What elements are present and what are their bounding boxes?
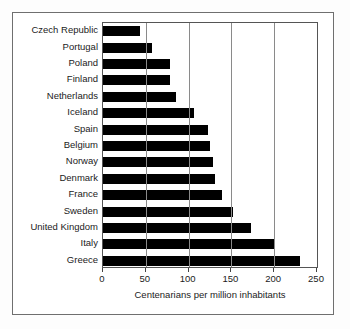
bar-row xyxy=(103,105,317,121)
category-label: Netherlands xyxy=(14,91,98,101)
category-label: Spain xyxy=(14,124,98,134)
bar-row xyxy=(103,236,317,252)
tick-mark-250 xyxy=(316,268,317,272)
gridline-200 xyxy=(274,23,275,267)
bar xyxy=(103,108,194,118)
bar xyxy=(103,92,176,102)
bar xyxy=(103,174,215,184)
bar xyxy=(103,190,222,200)
x-axis-tick-labels: 050100150200250 xyxy=(102,273,318,286)
category-label: Iceland xyxy=(14,107,98,117)
tick-label-150: 150 xyxy=(222,273,238,285)
bar-row xyxy=(103,171,317,187)
tick-label-50: 50 xyxy=(140,273,151,285)
tick-label-250: 250 xyxy=(308,273,324,285)
category-label: Finland xyxy=(14,74,98,84)
tick-mark-200 xyxy=(273,268,274,272)
tick-mark-0 xyxy=(102,268,103,272)
category-label: Belgium xyxy=(14,140,98,150)
category-label: Italy xyxy=(14,238,98,248)
category-label: Portugal xyxy=(14,42,98,52)
tick-mark-150 xyxy=(230,268,231,272)
bar-row xyxy=(103,154,317,170)
x-axis-title: Centenarians per million inhabitants xyxy=(102,289,318,301)
tick-label-200: 200 xyxy=(265,273,281,285)
bar-row xyxy=(103,72,317,88)
bar-row xyxy=(103,121,317,137)
bar xyxy=(103,59,170,69)
bar xyxy=(103,157,213,167)
plot-area xyxy=(102,22,318,268)
bar xyxy=(103,223,251,233)
tick-mark-100 xyxy=(188,268,189,272)
gridline-100 xyxy=(189,23,190,267)
bar xyxy=(103,43,152,53)
bars-layer xyxy=(103,23,317,267)
bar xyxy=(103,256,300,266)
bar xyxy=(103,141,210,151)
category-axis-labels: Czech RepublicPortugalPolandFinlandNethe… xyxy=(14,22,98,268)
tick-label-100: 100 xyxy=(180,273,196,285)
bar-row xyxy=(103,89,317,105)
category-label: Norway xyxy=(14,156,98,166)
bar-row xyxy=(103,187,317,203)
category-label: France xyxy=(14,189,98,199)
category-label: United Kingdom xyxy=(14,222,98,232)
bar-row xyxy=(103,56,317,72)
bar xyxy=(103,75,170,85)
bar xyxy=(103,207,233,217)
bar-row xyxy=(103,23,317,39)
chart-page: Czech RepublicPortugalPolandFinlandNethe… xyxy=(0,0,350,329)
gridline-150 xyxy=(231,23,232,267)
bar xyxy=(103,125,208,135)
category-label: Sweden xyxy=(14,206,98,216)
category-label: Greece xyxy=(14,255,98,265)
bar-row xyxy=(103,39,317,55)
bar-row xyxy=(103,138,317,154)
category-label: Denmark xyxy=(14,173,98,183)
bar-row xyxy=(103,220,317,236)
category-label: Poland xyxy=(14,58,98,68)
tick-label-0: 0 xyxy=(99,273,104,285)
gridline-50 xyxy=(146,23,147,267)
bar-row xyxy=(103,203,317,219)
category-label: Czech Republic xyxy=(14,25,98,35)
bar-row xyxy=(103,253,317,269)
tick-mark-50 xyxy=(145,268,146,272)
bar xyxy=(103,26,140,36)
